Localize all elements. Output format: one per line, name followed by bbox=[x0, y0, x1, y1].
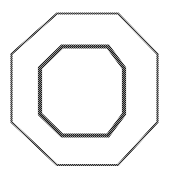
octagon-diagram-svg bbox=[0, 0, 170, 178]
inner-octagon-stroke-fill bbox=[0, 0, 170, 178]
inner-octagon bbox=[0, 0, 170, 178]
octagon-figure-canvas bbox=[0, 0, 170, 178]
